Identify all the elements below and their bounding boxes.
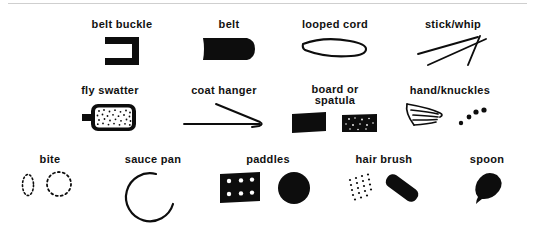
item-bite: bite [8,153,92,200]
solid-belt-strap-icon [201,35,257,63]
item-label: paddles [246,153,290,165]
dotted-bite-arcs-icon [16,170,84,200]
item-board-or-spatula: board or spatula [286,84,384,134]
item-belt: belt [186,18,272,63]
item-stick-whip: stick/whip [398,18,508,67]
item-fly-swatter: fly swatter [58,84,162,133]
item-label: belt buckle [92,18,153,30]
top-rule-divider [8,3,527,4]
elongated-loop-cord-icon [300,35,370,61]
item-label: bite [40,153,61,165]
item-label: hand/knuckles [410,84,490,96]
item-label: fly swatter [81,84,139,96]
holed-paddle-and-disc-icon [218,171,318,205]
item-label: board or spatula [311,84,358,106]
item-belt-buckle: belt buckle [68,18,176,67]
stippled-swatter-paddle-icon [81,101,139,133]
item-hair-brush: hair brush [330,153,438,205]
teardrop-spoon-bowl-icon [467,171,507,205]
item-paddles: paddles [214,153,322,205]
item-label: hair brush [356,153,413,165]
two-dark-boards-icon [292,112,378,134]
wire-hanger-triangle-icon [182,101,266,129]
bristle-dots-and-brush-body-icon [342,171,426,205]
item-label: belt [219,18,240,30]
item-label: coat hanger [191,84,257,96]
item-label: looped cord [302,18,368,30]
open-hand-and-knuckle-dots-icon [404,101,496,131]
item-label: sauce pan [125,153,182,165]
item-label: stick/whip [425,18,481,30]
item-hand-knuckles: hand/knuckles [388,84,512,131]
figure-canvas: belt buckle belt looped cord stick/whip [0,0,535,229]
open-circle-pan-icon [126,172,180,224]
open-bracket-buckle-icon [99,35,145,67]
item-looped-cord: looped cord [282,18,388,61]
item-sauce-pan: sauce pan [102,153,204,224]
item-coat-hanger: coat hanger [168,84,280,129]
crossed-sticks-icon [416,35,490,67]
item-label: spoon [470,153,505,165]
item-spoon: spoon [446,153,528,205]
